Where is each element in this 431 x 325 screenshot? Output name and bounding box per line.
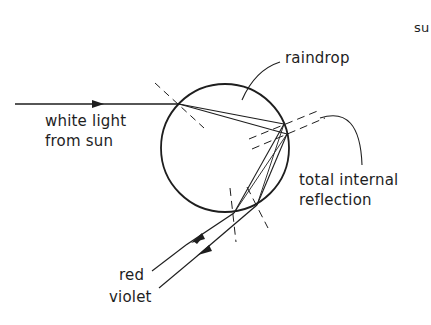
refracted-ray-violet-inside	[179, 104, 287, 134]
tir-pointer-curve	[320, 116, 362, 165]
corner-text-fragment: su	[414, 18, 429, 38]
violet-label: violet	[109, 287, 152, 307]
red-label: red	[119, 265, 144, 285]
tir-label-line2: reflection	[299, 190, 372, 210]
raindrop-circle	[161, 84, 289, 212]
exit-ray-red	[186, 213, 234, 245]
exit-arrowhead-violet-icon	[198, 245, 212, 255]
tir-label-line1: total internal	[299, 170, 398, 190]
refracted-ray-red-inside	[179, 104, 284, 124]
red-leader-line	[152, 245, 186, 271]
white-light-label-line2: from sun	[45, 131, 113, 151]
raindrop-label: raindrop	[285, 48, 350, 68]
raindrop-dispersion-diagram	[0, 0, 431, 325]
white-light-label-line1: white light	[45, 111, 126, 131]
incoming-arrowhead-icon	[92, 100, 104, 108]
